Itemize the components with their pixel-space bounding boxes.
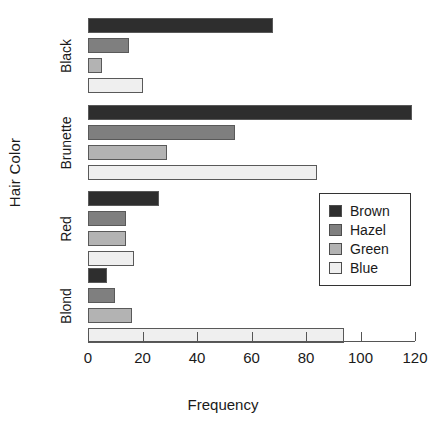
bar-red-brown	[88, 191, 159, 206]
legend-item-brown: Brown	[320, 201, 410, 220]
category-label-black: Black	[44, 47, 88, 65]
x-tick-100	[361, 332, 362, 341]
y-axis-title: Hair Color	[0, 0, 30, 345]
x-tick-label-120: 120	[395, 349, 435, 366]
legend-label-blue: Blue	[350, 261, 378, 275]
bar-black-brown	[88, 18, 273, 33]
x-tick-label-100: 100	[341, 349, 381, 366]
bar-brunette-green	[88, 145, 167, 160]
bar-black-blue	[88, 78, 143, 93]
y-axis-title-text: Hair Color	[7, 138, 24, 208]
bar-brunette-blue	[88, 165, 317, 180]
legend-item-blue: Blue	[320, 258, 410, 277]
legend-item-hazel: Hazel	[320, 220, 410, 239]
x-tick-label-60: 60	[232, 349, 272, 366]
x-tick-label-0: 0	[68, 349, 108, 366]
category-label-brunette: Brunette	[44, 134, 88, 152]
x-tick-label-80: 80	[286, 349, 326, 366]
legend-swatch-hazel	[329, 224, 342, 236]
x-tick-0	[88, 332, 89, 341]
legend-label-hazel: Hazel	[350, 223, 386, 237]
bar-brunette-hazel	[88, 125, 235, 140]
legend-label-green: Green	[350, 242, 389, 256]
category-label-red: Red	[44, 220, 88, 238]
legend-item-green: Green	[320, 239, 410, 258]
bar-brunette-brown	[88, 105, 412, 120]
category-label-blond: Blond	[44, 297, 88, 315]
legend-swatch-blue	[329, 262, 342, 274]
bar-black-green	[88, 58, 102, 73]
x-tick-80	[306, 332, 307, 341]
bar-blond-green	[88, 308, 132, 323]
x-tick-120	[415, 332, 416, 341]
category-label-text: Red	[58, 216, 74, 242]
bar-red-green	[88, 231, 126, 246]
x-tick-label-20: 20	[123, 349, 163, 366]
x-tick-label-40: 40	[177, 349, 217, 366]
plot-area	[88, 10, 418, 340]
legend-label-brown: Brown	[350, 204, 390, 218]
category-label-text: Black	[58, 38, 74, 72]
legend: BrownHazelGreenBlue	[319, 193, 411, 286]
legend-swatch-green	[329, 243, 342, 255]
x-axis-line	[88, 341, 415, 342]
x-tick-40	[197, 332, 198, 341]
x-tick-20	[143, 332, 144, 341]
category-label-text: Brunette	[58, 116, 74, 169]
bar-chart: Hair Color BlackBrunetteRedBlond 0204060…	[0, 0, 446, 429]
bar-blond-brown	[88, 268, 107, 283]
category-label-text: Blond	[58, 288, 74, 324]
bar-black-hazel	[88, 38, 129, 53]
bar-red-hazel	[88, 211, 126, 226]
bar-red-blue	[88, 251, 134, 266]
bar-blond-hazel	[88, 288, 115, 303]
x-tick-60	[252, 332, 253, 341]
x-axis-title: Frequency	[0, 396, 446, 413]
legend-swatch-brown	[329, 205, 342, 217]
